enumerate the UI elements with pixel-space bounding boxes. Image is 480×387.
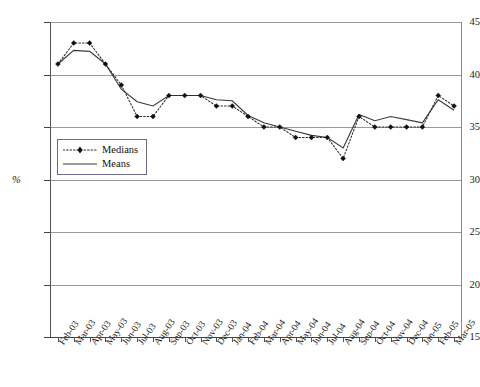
means-swatch-icon (63, 159, 97, 169)
y-tick-label: 30 (436, 175, 480, 186)
y-tick-label: 25 (436, 227, 480, 238)
y-tick-mark (44, 127, 50, 128)
medians-swatch-icon (63, 145, 97, 155)
y-tick-mark (44, 232, 50, 233)
legend: Medians Means (57, 139, 147, 175)
gridline (51, 75, 461, 76)
legend-label-medians: Medians (102, 145, 138, 156)
y-tick-mark (44, 180, 50, 181)
y-tick-label: 40 (436, 70, 480, 81)
gridline (51, 127, 461, 128)
y-tick-mark (44, 75, 50, 76)
y-tick-label: 45 (436, 17, 480, 28)
y-tick-label: 20 (436, 280, 480, 291)
legend-item-medians: Medians (63, 143, 138, 157)
chart-container: % 15202530354045 Feb-03Mar-03Apr-03May-0… (0, 0, 480, 387)
y-tick-mark (44, 285, 50, 286)
gridline (51, 285, 461, 286)
gridline (51, 22, 461, 23)
gridline (51, 180, 461, 181)
legend-label-means: Means (102, 159, 130, 170)
gridline (51, 232, 461, 233)
x-axis-line (50, 337, 462, 338)
plot-area (50, 22, 462, 337)
y-tick-mark (44, 22, 50, 23)
legend-item-means: Means (63, 157, 138, 171)
y-axis-title: % (12, 174, 21, 185)
y-tick-label: 35 (436, 122, 480, 133)
